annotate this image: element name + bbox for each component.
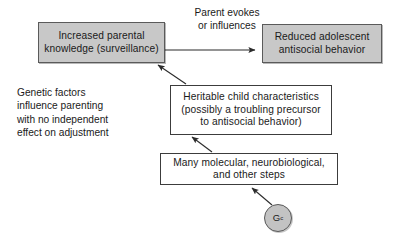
node-heritable-characteristics-label: Heritable child characteristics (possibl… bbox=[171, 91, 331, 128]
edge-heritable-to-knowledge bbox=[158, 65, 186, 84]
node-genotype-subscript: c bbox=[280, 215, 283, 221]
annotation-genetic-factors: Genetic factors influence parenting with… bbox=[17, 86, 157, 139]
node-heritable-characteristics[interactable]: Heritable child characteristics (possibl… bbox=[170, 85, 332, 135]
diagram-canvas: Increased parental knowledge (surveillan… bbox=[0, 0, 399, 246]
edge-label-parent-evokes: Parent evokes or influences bbox=[175, 6, 279, 33]
node-molecular-steps[interactable]: Many molecular, neurobiological, and oth… bbox=[160, 153, 338, 185]
node-adolescent-behavior[interactable]: Reduced adolescent antisocial behavior bbox=[262, 24, 382, 63]
edge-genotype-to-molecular bbox=[252, 188, 272, 205]
node-genotype-circle[interactable]: Gc bbox=[264, 204, 292, 232]
node-parental-knowledge[interactable]: Increased parental knowledge (surveillan… bbox=[38, 22, 165, 63]
node-parental-knowledge-label: Increased parental knowledge (surveillan… bbox=[39, 30, 164, 55]
node-molecular-steps-label: Many molecular, neurobiological, and oth… bbox=[161, 157, 337, 182]
node-genotype-label: G bbox=[273, 212, 281, 224]
node-adolescent-behavior-label: Reduced adolescent antisocial behavior bbox=[263, 31, 381, 56]
edge-molecular-to-heritable bbox=[192, 137, 212, 152]
